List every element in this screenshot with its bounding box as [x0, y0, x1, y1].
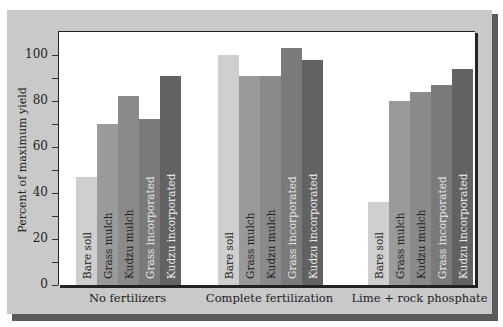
bar-series-label: Kudzu incorporated	[307, 173, 319, 279]
bar-series-label: Grass incorporated	[436, 176, 448, 279]
bar-series-label: Kudzu mulch	[415, 210, 427, 279]
bar: Bare soil	[76, 177, 97, 285]
bar-series-label: Kudzu mulch	[265, 210, 277, 279]
bar-series-label: Grass mulch	[102, 212, 114, 279]
bar: Kudzu mulch	[410, 92, 431, 285]
bar: Kudzu incorporated	[452, 69, 473, 285]
bar: Grass incorporated	[281, 48, 302, 285]
x-group-label: Complete fertilization	[206, 291, 333, 305]
bar-series-label: Grass mulch	[244, 212, 256, 279]
y-tick-label: 60	[18, 139, 48, 153]
y-tick-label: 20	[18, 231, 48, 245]
bar: Grass mulch	[239, 76, 260, 285]
x-group-label: No fertilizers	[89, 291, 166, 305]
bar: Grass mulch	[97, 124, 118, 285]
bar-series-label: Grass incorporated	[286, 176, 298, 279]
y-tick	[52, 216, 58, 217]
y-tick	[52, 170, 58, 171]
y-tick	[52, 124, 58, 125]
bar-series-label: Kudzu incorporated	[457, 173, 469, 279]
plot-area: Bare soilGrass mulchKudzu mulchGrass inc…	[58, 31, 475, 285]
y-tick	[52, 101, 58, 102]
bar: Kudzu mulch	[118, 96, 139, 285]
x-axis-line	[60, 285, 478, 288]
bar: Grass incorporated	[139, 119, 160, 285]
bar: Kudzu incorporated	[160, 76, 181, 285]
bar-series-label: Kudzu mulch	[123, 210, 135, 279]
bar-series-label: Kudzu incorporated	[165, 173, 177, 279]
bar-series-label: Bare soil	[81, 232, 93, 279]
x-group-label: Lime + rock phosphate	[351, 291, 487, 305]
bar: Bare soil	[218, 55, 239, 285]
y-tick-label: 100	[18, 47, 48, 61]
bar: Kudzu incorporated	[302, 60, 323, 285]
y-tick-label: 80	[18, 93, 48, 107]
y-tick	[52, 55, 58, 56]
y-tick	[52, 239, 58, 240]
bar-series-label: Bare soil	[223, 232, 235, 279]
plot-frame-right	[475, 33, 478, 287]
bar-series-label: Bare soil	[373, 232, 385, 279]
y-tick	[52, 262, 58, 263]
bar-series-label: Grass mulch	[394, 212, 406, 279]
y-tick-label: 40	[18, 185, 48, 199]
y-tick	[52, 193, 58, 194]
y-tick	[52, 147, 58, 148]
bar: Grass mulch	[389, 101, 410, 285]
y-tick	[52, 78, 58, 79]
y-axis-label: Percent of maximum yield	[16, 87, 29, 233]
y-tick	[52, 285, 58, 286]
y-tick-label: 0	[18, 277, 48, 291]
bar: Grass incorporated	[431, 85, 452, 285]
bar: Kudzu mulch	[260, 76, 281, 285]
bar-series-label: Grass incorporated	[144, 176, 156, 279]
bar: Bare soil	[368, 202, 389, 285]
